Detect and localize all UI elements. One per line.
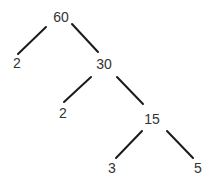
edge-n15-n3 [116, 131, 142, 158]
edge-n60-n30 [72, 24, 98, 52]
node-5: 5 [194, 161, 202, 175]
edge-n60-n2a [18, 27, 46, 54]
node-60: 60 [53, 10, 69, 24]
edge-n30-n2b [64, 77, 91, 102]
edge-n15-n5 [167, 131, 193, 158]
factor-tree-diagram: 60 2 30 2 15 3 5 [0, 0, 212, 181]
node-3: 3 [108, 161, 116, 175]
tree-edges [0, 0, 212, 181]
node-2-left: 2 [13, 56, 21, 70]
edge-n30-n15 [117, 77, 143, 104]
node-2-mid: 2 [59, 106, 67, 120]
node-30: 30 [96, 57, 112, 71]
node-15: 15 [144, 112, 160, 126]
